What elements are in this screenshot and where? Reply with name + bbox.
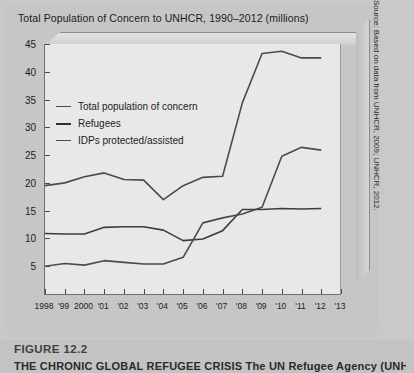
x-axis-tick-label: '02 — [117, 301, 128, 311]
y-axis-tick-label: 20 — [14, 177, 36, 188]
legend-item-total-population-of-concern: Total population of concern — [56, 98, 198, 115]
legend-label: Refugees — [78, 118, 121, 129]
x-axis-tick-label: '12 — [315, 301, 326, 311]
legend-label: Total population of concern — [78, 101, 198, 112]
y-axis-tick-label: 10 — [14, 233, 36, 244]
x-axis-tick-label: 1998 — [35, 301, 54, 311]
x-axis-tick-label: 2000 — [74, 301, 93, 311]
series-lines — [45, 44, 341, 294]
x-axis-tick-label: '99 — [58, 301, 69, 311]
x-axis-tick-mark — [282, 289, 283, 294]
x-axis-tick-label: '05 — [177, 301, 188, 311]
series-line-idps-protected-assisted — [45, 147, 321, 266]
x-axis-tick-mark — [144, 289, 145, 294]
x-axis-tick-label: '06 — [196, 301, 207, 311]
y-axis-tick-mark — [45, 238, 50, 239]
y-axis-tick-label: 35 — [14, 94, 36, 105]
x-axis-tick-label: '11 — [295, 301, 305, 311]
x-axis-tick-mark — [203, 289, 204, 294]
legend-swatch-icon — [56, 106, 71, 107]
y-axis-tick-label: 40 — [14, 66, 36, 77]
y-axis-tick-label: 45 — [14, 39, 36, 50]
x-axis-tick-mark — [341, 289, 342, 294]
y-axis-tick-label: 15 — [14, 205, 36, 216]
plot-area: 51015202530354045 1998'992000'01'02'03'0… — [44, 32, 370, 297]
x-axis-tick-mark — [262, 289, 263, 294]
y-axis-tick-mark — [45, 211, 50, 212]
x-axis-tick-mark — [124, 289, 125, 294]
x-axis-tick-label: '08 — [236, 301, 247, 311]
source-note: Source: Based on data from UNHCR, 2009; … — [372, 0, 381, 330]
x-axis-tick-mark — [104, 289, 105, 294]
y-axis-tick-label: 25 — [14, 150, 36, 161]
chart-legend: Total population of concern Refugees IDP… — [56, 98, 198, 149]
y-axis-tick-mark — [45, 44, 50, 45]
chart-title: Total Population of Concern to UNHCR, 19… — [18, 12, 309, 24]
x-axis-tick-mark — [183, 289, 184, 294]
legend-swatch-icon — [56, 140, 71, 141]
x-axis-tick-label: '07 — [216, 301, 227, 311]
y-axis-tick-mark — [45, 183, 50, 184]
figure-number: FIGURE 12.2 — [14, 343, 87, 355]
plot-front-face — [44, 44, 341, 295]
y-axis-tick-label: 30 — [14, 122, 36, 133]
y-axis-tick-mark — [45, 155, 50, 156]
x-axis-tick-label: '10 — [275, 301, 286, 311]
x-axis-tick-mark — [84, 289, 85, 294]
legend-item-refugees: Refugees — [56, 115, 198, 132]
y-axis-tick-label: 5 — [14, 261, 36, 272]
x-axis-tick-mark — [163, 289, 164, 294]
y-axis-tick-mark — [45, 72, 50, 73]
legend-swatch-icon — [56, 123, 71, 125]
x-axis-tick-mark — [321, 289, 322, 294]
x-axis-tick-label: '13 — [334, 301, 345, 311]
legend-item-idps-protected-assisted: IDPs protected/assisted — [56, 132, 198, 149]
figure-caption-block: FIGURE 12.2 THE CHRONIC GLOBAL REFUGEE C… — [0, 340, 414, 373]
x-axis-tick-label: '09 — [256, 301, 267, 311]
y-axis-tick-mark — [45, 100, 50, 101]
x-axis-tick-label: '03 — [137, 301, 148, 311]
x-axis-tick-mark — [223, 289, 224, 294]
figure-card: Total Population of Concern to UNHCR, 19… — [4, 2, 378, 338]
y-axis-tick-mark — [45, 127, 50, 128]
x-axis-tick-label: '04 — [157, 301, 168, 311]
x-axis-tick-mark — [302, 289, 303, 294]
figure-caption-text: THE CHRONIC GLOBAL REFUGEE CRISIS The UN… — [14, 360, 406, 372]
legend-label: IDPs protected/assisted — [78, 135, 184, 146]
plot-box-right-face — [356, 19, 370, 282]
x-axis-tick-label: '01 — [98, 301, 109, 311]
x-axis-tick-mark — [242, 289, 243, 294]
series-line-refugees — [45, 208, 321, 240]
y-axis-tick-mark — [45, 266, 50, 267]
x-axis-tick-mark — [65, 289, 66, 294]
x-axis-tick-mark — [45, 289, 46, 294]
